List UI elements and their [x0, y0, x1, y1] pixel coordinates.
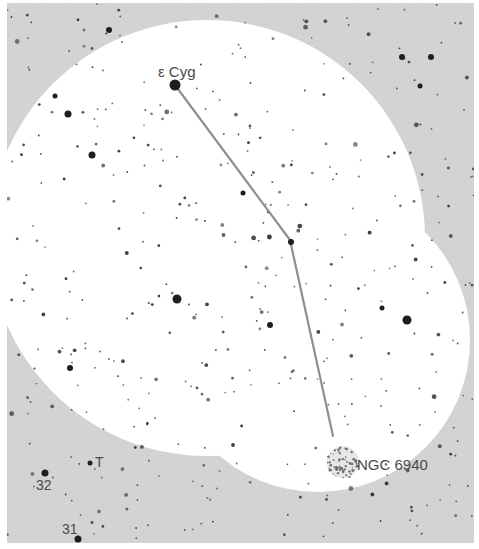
- field-star: [69, 291, 71, 293]
- field-star: [372, 61, 374, 63]
- field-star: [385, 390, 387, 392]
- field-star: [26, 14, 29, 17]
- field-star: [232, 53, 234, 55]
- cluster-star: [346, 461, 348, 463]
- field-star: [91, 47, 94, 50]
- field-star: [357, 287, 360, 290]
- field-star: [454, 22, 456, 24]
- field-star: [77, 385, 79, 387]
- field-star: [353, 142, 358, 147]
- field-star: [439, 499, 441, 501]
- field-star: [205, 302, 209, 306]
- field-star: [341, 256, 343, 258]
- field-star: [326, 495, 328, 497]
- field-star: [37, 349, 39, 351]
- field-star: [437, 196, 439, 198]
- star-bright-7: [428, 54, 434, 60]
- field-star: [408, 61, 411, 64]
- cluster-star: [333, 459, 335, 461]
- field-star: [52, 477, 54, 479]
- field-star: [463, 109, 465, 111]
- star-bright-left: [65, 111, 72, 118]
- field-star: [184, 529, 186, 531]
- field-star: [147, 144, 150, 147]
- field-star: [267, 235, 272, 240]
- field-star: [412, 278, 414, 280]
- field-star: [117, 375, 119, 377]
- field-star: [124, 493, 128, 497]
- cluster-star: [350, 473, 352, 475]
- field-star: [434, 411, 436, 413]
- field-star: [419, 388, 421, 390]
- field-star: [410, 506, 413, 509]
- star-bright-right: [403, 316, 412, 325]
- field-star: [431, 266, 433, 268]
- field-star: [70, 456, 72, 458]
- field-star: [91, 521, 94, 524]
- field-star: [121, 467, 125, 471]
- field-star: [108, 358, 110, 360]
- field-star: [249, 369, 251, 371]
- field-star: [148, 393, 150, 395]
- cluster-star: [351, 463, 353, 465]
- field-star: [137, 499, 139, 501]
- field-star: [323, 93, 326, 96]
- field-star: [344, 310, 346, 312]
- field-star: [20, 153, 23, 156]
- field-star: [304, 463, 306, 465]
- field-star: [294, 286, 296, 288]
- field-star: [153, 148, 155, 150]
- field-star: [299, 496, 302, 499]
- field-star: [349, 486, 354, 491]
- field-star: [65, 277, 68, 280]
- field-star: [140, 445, 144, 449]
- field-star: [190, 385, 192, 387]
- field-star: [291, 370, 294, 373]
- field-star: [73, 271, 75, 273]
- field-star: [414, 333, 416, 335]
- cluster-star: [345, 465, 347, 467]
- field-star: [371, 493, 375, 497]
- field-star: [133, 136, 136, 139]
- field-star: [351, 378, 353, 380]
- field-star: [305, 203, 308, 206]
- field-star: [95, 143, 98, 146]
- field-star: [258, 282, 260, 284]
- field-star: [113, 200, 116, 203]
- field-star: [164, 110, 169, 115]
- star-bright-9: [241, 191, 246, 196]
- field-star: [469, 282, 471, 284]
- field-star: [227, 162, 229, 164]
- field-star: [421, 173, 424, 176]
- field-star: [420, 124, 422, 126]
- field-star: [29, 69, 31, 71]
- field-star: [265, 266, 269, 270]
- star-star-32: [42, 470, 49, 477]
- field-star: [27, 413, 29, 415]
- field-star: [317, 249, 319, 251]
- field-star: [142, 241, 144, 243]
- field-star: [287, 514, 289, 516]
- field-star: [391, 431, 394, 434]
- field-star: [31, 288, 34, 291]
- field-star: [94, 118, 96, 120]
- field-star: [330, 285, 332, 287]
- field-star: [305, 283, 307, 285]
- field-star: [399, 47, 401, 49]
- cluster-star: [342, 477, 344, 479]
- field-star: [258, 240, 260, 242]
- field-star: [419, 424, 421, 426]
- field-star: [77, 18, 80, 21]
- field-star: [409, 151, 412, 154]
- field-star: [209, 499, 211, 501]
- field-star: [118, 227, 121, 230]
- field-star: [151, 303, 154, 306]
- field-star: [404, 9, 406, 11]
- cluster-star: [337, 472, 339, 474]
- field-star: [201, 393, 204, 396]
- field-star: [158, 295, 161, 298]
- cluster-star: [335, 475, 336, 476]
- field-star: [146, 422, 149, 425]
- field-star: [438, 444, 442, 448]
- field-star: [231, 443, 235, 447]
